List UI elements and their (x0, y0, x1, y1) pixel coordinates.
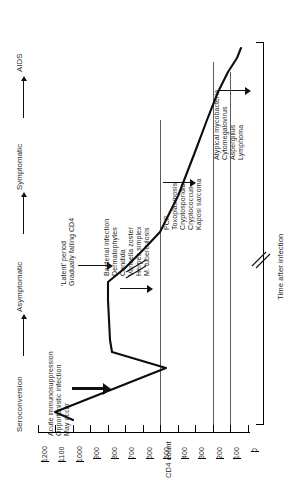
figure-canvas: Seroconversion Asymptomatic Symptomatic … (0, 0, 290, 480)
axis-break-time-axis (252, 252, 270, 268)
cd4-curve-overlay (0, 0, 290, 480)
cd4-curve (55, 48, 241, 420)
